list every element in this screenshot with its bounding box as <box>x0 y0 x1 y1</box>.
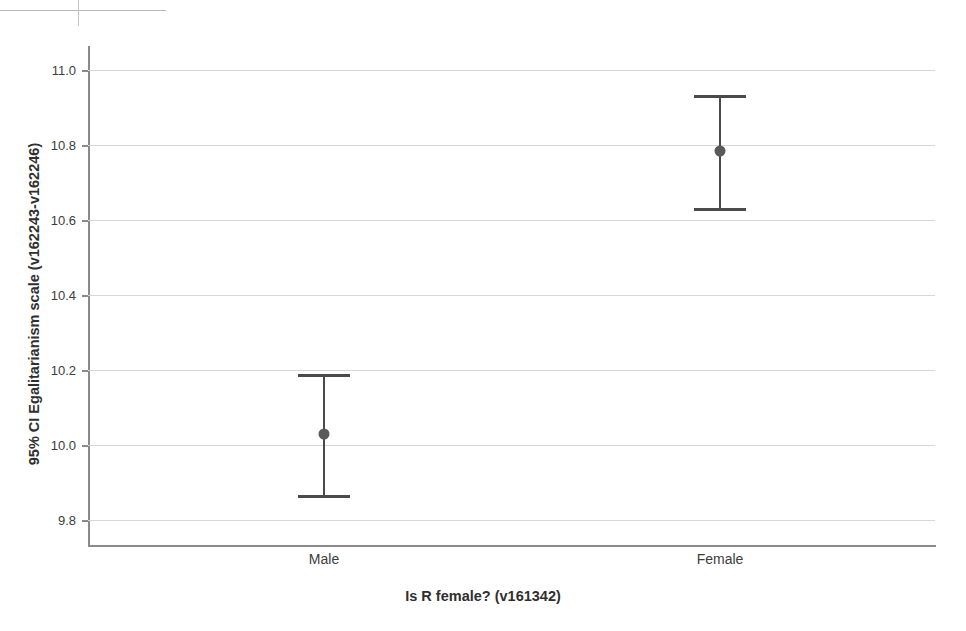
y-tick-mark <box>82 445 88 447</box>
gridline-10-6 <box>88 220 935 221</box>
y-tick-mark <box>82 520 88 522</box>
top-crop-artifact-tick <box>78 0 79 26</box>
x-axis-line <box>88 545 936 547</box>
gridline-11-0 <box>88 70 935 71</box>
x-tick-label-male: Male <box>309 551 339 567</box>
gridline-10-8 <box>88 145 935 146</box>
gridline-10-0 <box>88 445 935 446</box>
y-tick-mark <box>82 295 88 297</box>
x-axis-title: Is R female? (v161342) <box>0 588 966 604</box>
data-point-marker-female <box>715 146 726 157</box>
errorbar-cap-lower <box>694 208 746 211</box>
y-tick-mark <box>82 145 88 147</box>
y-tick-mark <box>82 220 88 222</box>
y-axis-line <box>88 46 90 546</box>
gridline-10-2 <box>88 370 935 371</box>
data-point-marker-male <box>319 429 330 440</box>
x-tick-label-female: Female <box>697 551 744 567</box>
y-axis-title: 95% CI Egalitarianism scale (v162243-v16… <box>26 24 42 584</box>
gridline-10-4 <box>88 295 935 296</box>
y-tick-mark <box>82 370 88 372</box>
gridline-9-8 <box>88 520 935 521</box>
errorbar-cap-lower <box>298 495 350 498</box>
top-crop-artifact-line <box>0 10 166 11</box>
y-tick-mark <box>82 70 88 72</box>
chart-page: 11.0 10.8 10.6 10.4 10.2 10.0 9.8 95% CI… <box>0 0 966 631</box>
